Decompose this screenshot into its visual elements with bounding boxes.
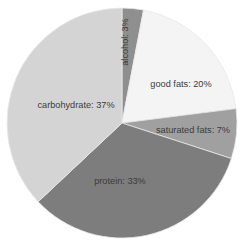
pie-chart: alcohol: 3%good fats: 20%saturated fats:… [0, 0, 249, 243]
pie-chart-canvas: alcohol: 3%good fats: 20%saturated fats:… [0, 0, 249, 243]
pie-slice-label-carbohydrate: carbohydrate: 37% [37, 100, 114, 110]
pie-slice-label-saturated-fats: saturated fats: 7% [156, 125, 230, 135]
pie-slice-label-good-fats: good fats: 20% [150, 79, 211, 89]
pie-slice-label-alcohol: alcohol: 3% [120, 18, 130, 66]
pie-slice-label-protein: protein: 33% [94, 176, 146, 186]
